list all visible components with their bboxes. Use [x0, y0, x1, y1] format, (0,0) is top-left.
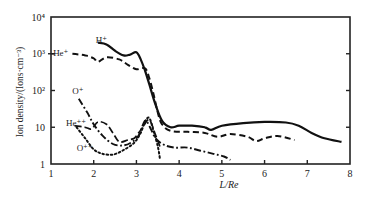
y-tick-label: 10² — [32, 85, 45, 96]
x-tick-label: 2 — [91, 168, 96, 179]
x-tick-label: 8 — [348, 168, 353, 179]
series-label-0: H⁺ — [96, 35, 107, 45]
series-label-2: O⁺ — [72, 86, 83, 96]
y-tick-label: 10⁴ — [32, 12, 46, 23]
series-labels: H⁺He⁺O⁺He⁺⁺O⁺⁺ — [53, 35, 107, 153]
series-label-3: He⁺⁺ — [66, 118, 86, 128]
y-tick-label: 10³ — [32, 48, 45, 59]
series-lines — [72, 43, 341, 160]
y-tick-label: 1 — [40, 159, 45, 170]
x-axis-label: L/Re — [219, 179, 239, 190]
x-axis-ticks: 12345678 — [49, 160, 353, 179]
x-tick-label: 6 — [262, 168, 267, 179]
series-label-1: He⁺ — [53, 48, 68, 58]
x-tick-label: 1 — [49, 168, 54, 179]
series-line-1 — [72, 54, 294, 141]
y-axis-label: Ion density/(Ions·cm⁻³) — [15, 47, 26, 137]
x-tick-label: 5 — [219, 168, 224, 179]
y-tick-label: 10 — [35, 122, 45, 133]
x-tick-label: 4 — [177, 168, 182, 179]
ion-density-chart: 12345678 11010²10³10⁴ H⁺He⁺O⁺He⁺⁺O⁺⁺ L/R… — [0, 0, 367, 202]
series-line-0 — [98, 43, 342, 142]
x-tick-label: 3 — [134, 168, 139, 179]
x-tick-label: 7 — [305, 168, 310, 179]
series-label-4: O⁺⁺ — [77, 143, 93, 153]
